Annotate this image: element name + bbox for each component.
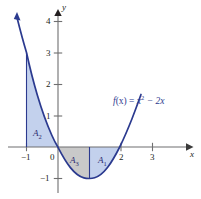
region-label-a2: A2 [33,129,42,140]
x-tick-label-0: 0 [50,153,55,162]
function-equals: = [127,96,137,106]
y-tick-label-2: 2 [46,80,51,89]
y-tick-label-3: 3 [46,49,51,58]
region-a2-fill [27,53,59,148]
region-label-a2-sub: 2 [39,133,42,140]
x-tick-label--1: −1 [21,153,31,162]
x-axis-label: x [190,150,194,159]
y-axis-arrow-icon [54,9,61,16]
y-tick-label-4: 4 [46,17,51,26]
x-tick-label-3: 3 [150,153,155,162]
curve-arrow-icon [14,12,21,21]
function-rest: − 2x [144,96,164,106]
region-label-a3: A3 [70,156,79,167]
function-equation-label: f(x) = x2 − 2x [113,95,164,107]
y-axis-label: y [62,3,66,12]
region-label-a1: A1 [98,156,107,167]
function-plot [0,0,201,199]
y-tick-label--1: −1 [40,174,50,183]
region-label-a1-sub: 1 [104,160,107,167]
function-arg: (x) [116,96,127,106]
x-tick-label-2: 2 [119,153,124,162]
graph-figure: x y −1 0 2 3 4 3 2 1 −1 A2 A3 A1 f(x) = … [0,0,201,199]
region-label-a3-sub: 3 [76,160,79,167]
y-tick-label-1: 1 [46,112,51,121]
